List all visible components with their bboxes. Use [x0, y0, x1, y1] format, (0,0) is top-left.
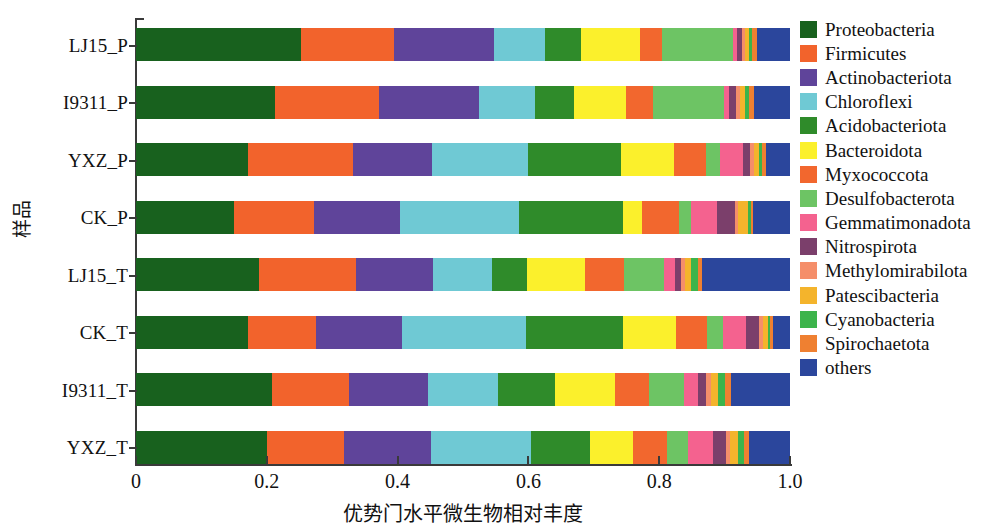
bar-segment	[698, 373, 705, 406]
legend-item[interactable]: Desulfobacterota	[800, 186, 1006, 210]
legend-item[interactable]: Cyanobacteria	[800, 307, 1006, 331]
legend-swatch-icon	[800, 45, 817, 62]
legend-item[interactable]: Methylomirabilota	[800, 259, 1006, 283]
bar-segment	[136, 316, 248, 349]
x-axis-tick	[658, 456, 660, 466]
bar-segment	[527, 258, 585, 291]
bar-segment	[706, 143, 720, 176]
y-axis-tick-label: CK_T	[10, 323, 128, 342]
stacked-bar	[136, 86, 790, 119]
legend-label: Methylomirabilota	[825, 261, 967, 280]
bar-segment	[743, 143, 750, 176]
bar-segment	[753, 201, 790, 234]
legend-label: Bacteroidota	[825, 141, 922, 160]
bar-segment	[494, 28, 545, 61]
bar-segment	[248, 316, 315, 349]
bar-segment	[574, 86, 626, 119]
bar-segment	[531, 431, 590, 464]
bar-segment	[136, 143, 248, 176]
legend-item[interactable]: Myxococcota	[800, 162, 1006, 186]
bar-segment	[662, 28, 733, 61]
legend-swatch-icon	[800, 311, 817, 328]
x-axis-tick	[397, 456, 399, 466]
legend-label: others	[825, 358, 871, 377]
bar-segment	[688, 431, 713, 464]
x-axis-tick	[266, 456, 268, 466]
y-axis-tick	[129, 45, 137, 47]
bar-segment	[234, 201, 314, 234]
legend-label: Myxococcota	[825, 165, 928, 184]
bar-segment	[730, 431, 739, 464]
legend-item[interactable]: Bacteroidota	[800, 138, 1006, 162]
bar-segment	[615, 373, 649, 406]
x-axis-tick-label: 0.6	[516, 470, 541, 493]
x-axis-tick-label: 0.8	[647, 470, 672, 493]
legend-label: Chloroflexi	[825, 92, 913, 111]
bar-segment	[642, 201, 679, 234]
legend-item[interactable]: Patescibacteria	[800, 283, 1006, 307]
bar-segment	[649, 373, 684, 406]
legend-item[interactable]: Proteobacteria	[800, 17, 1006, 41]
legend-item[interactable]: Gemmatimonadota	[800, 211, 1006, 235]
bar-segment	[691, 201, 717, 234]
bar-segment	[498, 373, 554, 406]
legend-item[interactable]: Nitrospirota	[800, 235, 1006, 259]
legend-swatch-icon	[800, 166, 817, 183]
bar-segment	[738, 201, 748, 234]
bar-segment	[749, 431, 790, 464]
legend-item[interactable]: others	[800, 356, 1006, 380]
bar-segment	[664, 258, 675, 291]
bar-segment	[136, 373, 272, 406]
legend-label: Acidobacteriota	[825, 116, 946, 135]
bar-segment	[353, 143, 431, 176]
bar-segment	[428, 373, 499, 406]
x-axis-tick	[789, 456, 791, 466]
bar-segment	[720, 143, 743, 176]
bar-segment	[136, 431, 267, 464]
legend-swatch-icon	[800, 93, 817, 110]
legend-item[interactable]: Acidobacteriota	[800, 114, 1006, 138]
legend-swatch-icon	[800, 262, 817, 279]
legend-item[interactable]: Actinobacteriota	[800, 65, 1006, 89]
bar-segment	[623, 316, 675, 349]
chart-root: LJ15_PI9311_PYXZ_PCK_PLJ15_TCK_TI9311_TY…	[0, 0, 1006, 531]
stacked-bar	[136, 431, 790, 464]
legend-label: Gemmatimonadota	[825, 213, 971, 232]
bar-segment	[684, 373, 698, 406]
bar-segment	[581, 28, 639, 61]
bar-segment	[717, 201, 735, 234]
legend-item[interactable]: Chloroflexi	[800, 90, 1006, 114]
bar-segment	[492, 258, 527, 291]
x-axis-tick-label: 0.4	[385, 470, 410, 493]
bar-segment	[723, 316, 747, 349]
x-axis-tick-label: 0.2	[254, 470, 279, 493]
legend-swatch-icon	[800, 142, 817, 159]
y-axis-tick	[129, 447, 137, 449]
bar-segment	[400, 201, 519, 234]
bar-segment	[316, 316, 402, 349]
bar-segment	[674, 143, 707, 176]
y-axis-tick	[129, 102, 137, 104]
legend-item[interactable]: Firmicutes	[800, 41, 1006, 65]
bar-segment	[479, 86, 535, 119]
bar-segment	[691, 258, 699, 291]
bar-segment	[136, 201, 234, 234]
legend-item[interactable]: Spirochaetota	[800, 331, 1006, 355]
y-axis-tick-label: LJ15_P	[10, 36, 128, 55]
legend-label: Actinobacteriota	[825, 68, 952, 87]
bar-segment	[585, 258, 624, 291]
bar-segment	[402, 316, 526, 349]
legend-swatch-icon	[800, 287, 817, 304]
legend-swatch-icon	[800, 238, 817, 255]
legend-swatch-icon	[800, 214, 817, 231]
bar-segment	[394, 28, 495, 61]
bar-segment	[356, 258, 433, 291]
stacked-bar	[136, 28, 790, 61]
bar-segment	[344, 431, 431, 464]
bar-segment	[766, 143, 790, 176]
legend-swatch-icon	[800, 335, 817, 352]
legend-swatch-icon	[800, 117, 817, 134]
bar-segment	[272, 373, 349, 406]
legend-label: Spirochaetota	[825, 334, 929, 353]
stacked-bar	[136, 258, 790, 291]
